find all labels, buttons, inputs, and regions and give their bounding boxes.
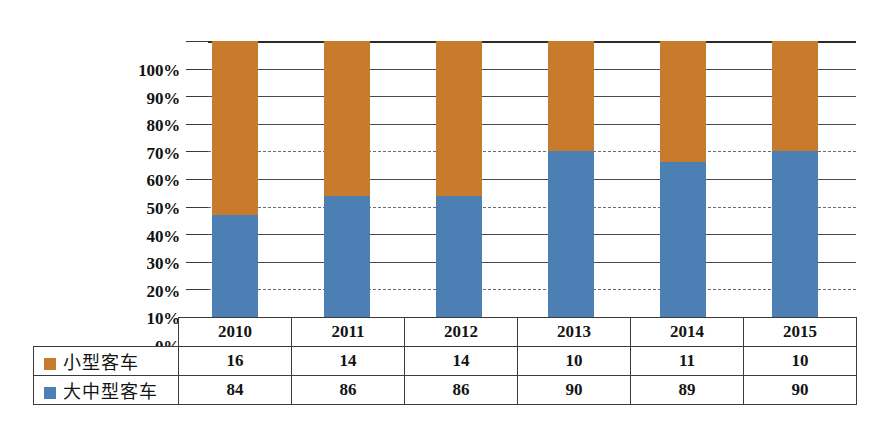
legend-swatch-orange-icon <box>44 358 56 370</box>
series-label-small-bus: 小型客车 <box>63 348 139 374</box>
chart-page: 100% 90% 80% 70% 60% 50% 40% 30% 20% 10%… <box>0 0 881 440</box>
cell-small-bus-2012: 14 <box>405 347 518 376</box>
y-tick-label-60: 60% <box>100 172 180 190</box>
gridline-70 <box>208 124 856 125</box>
legend-item-small-bus[interactable]: 小型客车 <box>34 347 179 376</box>
cell-large-bus-2011: 86 <box>292 376 405 405</box>
table-header-2014: 2014 <box>631 318 744 347</box>
gridline-40 <box>208 207 856 208</box>
y-tick-label-50: 50% <box>100 200 180 218</box>
table-row: 小型客车 16 14 14 10 11 10 <box>34 347 857 376</box>
y-tick-mark <box>186 69 208 70</box>
bar-2013[interactable] <box>548 41 594 317</box>
bar-segment-large-bus <box>772 151 818 317</box>
y-tick-mark <box>186 96 208 97</box>
legend-item-large-bus[interactable]: 大中型客车 <box>34 376 179 405</box>
bar-segment-large-bus <box>324 196 370 317</box>
data-table: 2010 2011 2012 2013 2014 2015 小型客车 16 14… <box>33 317 857 405</box>
table-header-2012: 2012 <box>405 318 518 347</box>
bar-segment-small-bus <box>212 41 258 215</box>
bar-2015[interactable] <box>772 41 818 317</box>
table-header-2013: 2013 <box>518 318 631 347</box>
cell-large-bus-2014: 89 <box>631 376 744 405</box>
y-tick-label-80: 80% <box>100 117 180 135</box>
y-tick-mark <box>186 179 208 180</box>
bar-2014[interactable] <box>660 41 706 317</box>
y-tick-label-30: 30% <box>100 255 180 273</box>
bar-segment-small-bus <box>324 41 370 196</box>
gridline-30 <box>208 234 856 235</box>
gridline-20 <box>208 262 856 263</box>
gridline-50 <box>208 179 856 180</box>
y-tick-label-70: 70% <box>100 145 180 163</box>
y-tick-mark <box>186 151 208 152</box>
series-label-large-bus: 大中型客车 <box>63 377 158 403</box>
stacked-bar-chart: 100% 90% 80% 70% 60% 50% 40% 30% 20% 10%… <box>0 0 881 320</box>
y-tick-mark <box>186 234 208 235</box>
y-tick-label-90: 90% <box>100 90 180 108</box>
table-header-2011: 2011 <box>292 318 405 347</box>
gridline-10 <box>208 289 856 290</box>
bar-segment-large-bus <box>212 215 258 317</box>
cell-small-bus-2013: 10 <box>518 347 631 376</box>
y-tick-mark <box>186 289 208 290</box>
bar-segment-large-bus <box>548 151 594 317</box>
gridline-90 <box>208 69 856 70</box>
table-corner-blank <box>34 318 179 347</box>
y-tick-label-20: 20% <box>100 283 180 301</box>
y-tick-mark <box>186 124 208 125</box>
y-tick-mark <box>186 262 208 263</box>
cell-small-bus-2014: 11 <box>631 347 744 376</box>
bar-segment-small-bus <box>660 41 706 162</box>
bar-segment-small-bus <box>772 41 818 151</box>
bar-2012[interactable] <box>436 41 482 317</box>
gridline-80 <box>208 96 856 97</box>
plot-area <box>208 41 856 317</box>
table-header-2010: 2010 <box>179 318 292 347</box>
cell-large-bus-2010: 84 <box>179 376 292 405</box>
bar-segment-large-bus <box>436 196 482 317</box>
bar-segment-large-bus <box>660 162 706 317</box>
gridline-60 <box>208 151 856 152</box>
cell-large-bus-2015: 90 <box>744 376 857 405</box>
table-header-row: 2010 2011 2012 2013 2014 2015 <box>34 318 857 347</box>
bar-segment-small-bus <box>436 41 482 196</box>
bar-2011[interactable] <box>324 41 370 317</box>
bar-segment-small-bus <box>548 41 594 151</box>
y-tick-mark <box>186 41 208 42</box>
cell-large-bus-2012: 86 <box>405 376 518 405</box>
table-row: 大中型客车 84 86 86 90 89 90 <box>34 376 857 405</box>
legend-swatch-blue-icon <box>44 387 56 399</box>
table-header-2015: 2015 <box>744 318 857 347</box>
bar-2010[interactable] <box>212 41 258 317</box>
y-tick-mark <box>186 207 208 208</box>
cell-large-bus-2013: 90 <box>518 376 631 405</box>
y-tick-label-40: 40% <box>100 228 180 246</box>
cell-small-bus-2010: 16 <box>179 347 292 376</box>
y-tick-label-100: 100% <box>100 62 180 80</box>
cell-small-bus-2015: 10 <box>744 347 857 376</box>
y-axis: 100% 90% 80% 70% 60% 50% 40% 30% 20% 10%… <box>100 30 180 330</box>
cell-small-bus-2011: 14 <box>292 347 405 376</box>
